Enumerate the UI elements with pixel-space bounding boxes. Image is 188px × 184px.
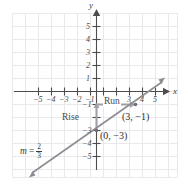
y-axis-label: y	[89, 1, 93, 10]
x-tick-label--2: −2	[72, 96, 81, 104]
data-point-second	[134, 103, 138, 107]
slope-equals-sign: =	[29, 147, 34, 157]
x-axis-label: x	[173, 87, 177, 96]
point-label-second: (3, −1)	[122, 112, 149, 122]
y-tick-label-5: 5	[86, 23, 90, 31]
rise-label: Rise	[62, 113, 79, 123]
y-tick-label-4: 4	[86, 36, 90, 44]
slope-denominator: 3	[36, 152, 42, 160]
slope-fraction: 2 3	[36, 143, 42, 160]
point-label-y-intercept: (0, −3)	[100, 131, 127, 141]
x-tick-label--4: −4	[46, 96, 55, 104]
y-tick-label-3: 3	[86, 49, 90, 57]
x-tick-label-3: 3	[127, 96, 131, 104]
x-tick-label--5: −5	[33, 96, 42, 104]
slope-variable: m	[20, 147, 27, 157]
y-axis-arrowhead	[93, 9, 100, 16]
coordinate-plane-figure: y x −5 −4 −3 −2 −1 3 4 5 5 4 3 2 1 −1 −3…	[0, 0, 188, 184]
y-tick-label-1: 1	[86, 75, 90, 83]
data-point-intercept	[95, 129, 99, 133]
y-tick-label--1: −1	[82, 101, 91, 109]
x-tick-label-5: 5	[153, 96, 157, 104]
x-tick-label-4: 4	[140, 96, 144, 104]
y-tick-label--4: −4	[82, 140, 91, 148]
slope-label: m = 2 3	[20, 143, 42, 160]
y-tick-label-2: 2	[86, 62, 90, 70]
run-label: Run	[103, 97, 121, 107]
x-tick-label--3: −3	[59, 96, 68, 104]
y-tick-label--3: −3	[82, 127, 91, 135]
y-tick-label--5: −5	[82, 153, 91, 161]
